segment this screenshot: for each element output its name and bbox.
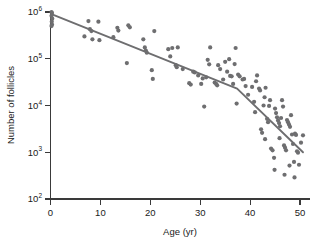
data-point bbox=[284, 148, 288, 152]
data-point bbox=[281, 104, 285, 108]
data-point bbox=[292, 175, 296, 179]
data-point bbox=[238, 74, 242, 78]
data-point bbox=[272, 168, 276, 172]
figure-container: 102103104105106 01020304050 Age (yr) Num… bbox=[0, 0, 321, 242]
data-point bbox=[270, 148, 274, 152]
data-point bbox=[218, 67, 222, 71]
data-point bbox=[202, 104, 206, 108]
data-point bbox=[280, 98, 284, 102]
data-point bbox=[151, 77, 155, 81]
data-point bbox=[301, 133, 305, 137]
data-point bbox=[242, 77, 246, 81]
data-point bbox=[86, 19, 90, 23]
data-point bbox=[288, 125, 292, 129]
data-point bbox=[97, 38, 101, 42]
data-point bbox=[141, 37, 145, 41]
x-tick-label: 30 bbox=[195, 207, 206, 218]
data-point bbox=[262, 95, 266, 99]
data-point bbox=[233, 62, 237, 66]
data-point bbox=[231, 82, 235, 86]
data-point bbox=[277, 136, 281, 140]
data-point bbox=[259, 127, 263, 131]
data-point bbox=[225, 70, 229, 74]
x-tick-label: 20 bbox=[145, 207, 156, 218]
data-point bbox=[254, 79, 258, 83]
data-point bbox=[150, 68, 154, 72]
chart-background bbox=[0, 0, 321, 242]
data-point bbox=[230, 74, 234, 78]
follicle-decline-scatter-chart: 102103104105106 01020304050 Age (yr) Num… bbox=[0, 0, 321, 242]
data-point bbox=[166, 47, 170, 51]
data-point bbox=[116, 29, 120, 33]
data-point bbox=[223, 60, 227, 64]
data-point bbox=[261, 103, 265, 107]
data-point bbox=[282, 173, 286, 177]
data-point bbox=[246, 93, 250, 97]
data-point bbox=[49, 24, 53, 28]
data-point bbox=[274, 111, 278, 115]
data-point bbox=[287, 163, 291, 167]
x-axis-title: Age (yr) bbox=[163, 226, 197, 237]
data-point bbox=[299, 141, 303, 145]
x-tick-label: 0 bbox=[48, 207, 53, 218]
data-point bbox=[258, 88, 262, 92]
data-point bbox=[235, 101, 239, 105]
data-point bbox=[168, 54, 172, 58]
data-point bbox=[297, 163, 301, 167]
data-point bbox=[96, 20, 100, 24]
x-tick-label: 50 bbox=[295, 207, 306, 218]
data-point bbox=[207, 62, 211, 66]
y-axis-title: Number of follicles bbox=[5, 66, 16, 144]
data-point bbox=[216, 63, 220, 67]
data-point bbox=[206, 58, 210, 62]
data-point bbox=[82, 34, 86, 38]
data-point bbox=[250, 85, 254, 89]
data-point bbox=[263, 137, 267, 141]
data-point bbox=[128, 25, 132, 29]
data-point bbox=[296, 151, 300, 155]
data-point bbox=[234, 46, 238, 50]
data-point bbox=[170, 46, 174, 50]
data-point bbox=[176, 45, 180, 49]
data-point bbox=[208, 45, 212, 49]
data-point bbox=[244, 84, 248, 88]
data-point bbox=[199, 82, 203, 86]
data-point bbox=[268, 98, 272, 102]
data-point bbox=[292, 160, 296, 164]
data-point bbox=[267, 104, 271, 108]
data-point bbox=[221, 77, 225, 81]
data-point bbox=[263, 86, 267, 90]
data-point bbox=[152, 29, 156, 33]
data-point bbox=[227, 57, 231, 61]
data-point bbox=[289, 113, 293, 117]
data-point bbox=[215, 83, 219, 87]
data-point bbox=[279, 116, 283, 120]
data-point bbox=[189, 83, 193, 87]
data-point bbox=[272, 156, 276, 160]
data-point bbox=[255, 73, 259, 77]
data-point bbox=[90, 37, 94, 41]
data-point bbox=[260, 131, 264, 135]
data-point bbox=[253, 110, 257, 114]
x-tick-label: 40 bbox=[245, 207, 256, 218]
x-tick-label: 10 bbox=[95, 207, 106, 218]
data-point bbox=[273, 106, 277, 110]
data-point bbox=[125, 61, 129, 65]
data-point bbox=[294, 133, 298, 137]
